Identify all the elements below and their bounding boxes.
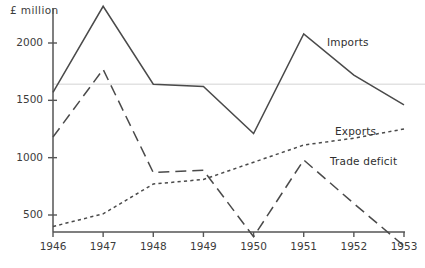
series-label-trade-deficit: Trade deficit (330, 155, 397, 167)
y-tick-label-1500: 1500 (3, 93, 43, 105)
x-tick-label-1946: 1946 (32, 240, 74, 252)
figure-caption (8, 259, 418, 268)
x-tick-label-1949: 1949 (182, 240, 224, 252)
series-label-imports: Imports (327, 36, 369, 48)
y-tick-label-2000: 2000 (3, 36, 43, 48)
x-tick-label-1952: 1952 (333, 240, 375, 252)
x-tick-label-1948: 1948 (132, 240, 174, 252)
y-tick-label-1000: 1000 (3, 151, 43, 163)
series-line-imports (53, 6, 404, 133)
x-tick-label-1951: 1951 (283, 240, 325, 252)
y-tick-label-500: 500 (3, 208, 43, 220)
series-label-exports: Exports (335, 125, 376, 137)
x-tick-label-1947: 1947 (82, 240, 124, 252)
x-tick-label-1953: 1953 (383, 240, 425, 252)
x-tick-label-1950: 1950 (233, 240, 275, 252)
figure-container: £ million 500100015002000 19461947194819… (0, 0, 425, 268)
series-line-exports (53, 129, 404, 226)
